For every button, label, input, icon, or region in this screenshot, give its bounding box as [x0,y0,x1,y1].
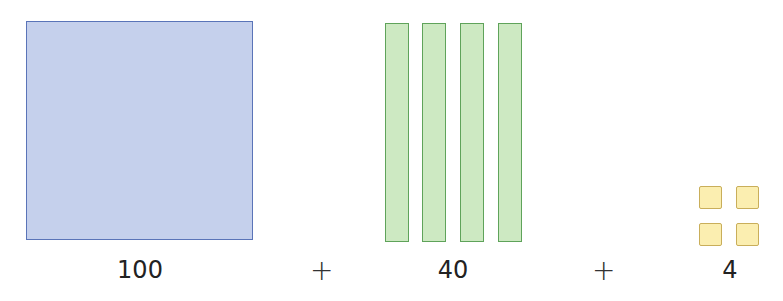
ten-rod [385,23,409,242]
plus-sign: + [310,254,333,287]
tens-label: 40 [428,256,478,284]
ones-label: 4 [718,256,742,284]
unit-cube [736,186,759,209]
ten-rod [498,23,522,242]
plus-sign: + [592,254,615,287]
hundred-flat [26,21,253,240]
hundreds-label: 100 [108,256,172,284]
unit-cube [699,223,722,246]
ten-rod [422,23,446,242]
ten-rod [460,23,484,242]
unit-cube [736,223,759,246]
unit-cube [699,186,722,209]
